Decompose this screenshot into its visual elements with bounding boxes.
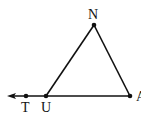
point-A — [128, 94, 133, 99]
label-T: T — [21, 100, 30, 115]
segment-NA — [94, 25, 130, 96]
segment-UN — [46, 25, 94, 96]
point-N — [92, 23, 97, 28]
point-T — [24, 94, 29, 99]
label-A: A — [136, 89, 141, 104]
label-U: U — [41, 100, 51, 115]
label-N: N — [88, 7, 98, 22]
point-U — [44, 94, 49, 99]
triangle-diagram: N T U A — [0, 0, 141, 115]
